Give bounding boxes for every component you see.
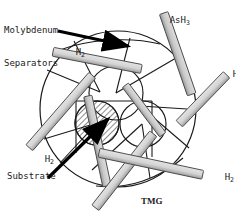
label-molybdenum-line1: Molybdenum bbox=[4, 25, 58, 36]
label-h2-subscript: 2 bbox=[230, 176, 234, 184]
figure-canvas: Molybdenum Separators AsH3 Substrate TMG… bbox=[0, 0, 236, 213]
label-ash3: AsH3 bbox=[148, 4, 190, 40]
label-ash3-base: AsH bbox=[170, 15, 186, 25]
label-h2-subscript: 2 bbox=[81, 51, 85, 59]
label-h2-top-left: H2 bbox=[54, 36, 85, 72]
label-molybdenum-separators: Molybdenum Separators bbox=[4, 3, 58, 91]
label-h2-right-lower: H2 bbox=[203, 161, 234, 197]
label-h2-subscript: 2 bbox=[50, 158, 54, 166]
label-ash3-subscript: 3 bbox=[186, 19, 190, 27]
label-h2-right-upper: H2 bbox=[211, 58, 236, 94]
label-tmg: TMG bbox=[141, 196, 163, 207]
rod-bottom-right bbox=[98, 148, 204, 179]
label-molybdenum-line2: Separators bbox=[4, 58, 58, 69]
rod-inner-upper-right bbox=[122, 83, 165, 137]
label-h2-base: H bbox=[233, 69, 236, 79]
label-h2-left-lower: H2 bbox=[23, 143, 54, 179]
